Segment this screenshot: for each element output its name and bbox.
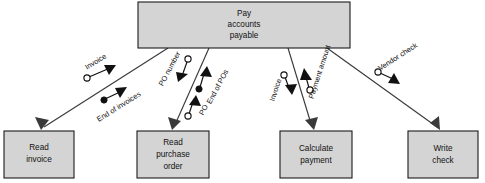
structure-chart-canvas: Pay accounts payable Read invoice Read p… — [0, 0, 485, 183]
couple-arrowhead-icon — [388, 73, 400, 84]
module-label-line: order — [163, 162, 182, 171]
module-label-line: purchase — [156, 150, 190, 159]
arrowhead-icon — [305, 117, 318, 130]
module-label-line: invoice — [26, 155, 52, 164]
module-read-purchase-order[interactable]: Read purchase order — [137, 131, 209, 178]
couple-arrowhead-icon — [200, 66, 212, 77]
data-couple-circle-icon — [84, 75, 90, 81]
couple-label: Payment amount — [307, 44, 333, 100]
couple-arrowhead-icon — [300, 68, 312, 80]
couple-invoice-up: Invoice — [83, 52, 116, 82]
module-pay-accounts-payable[interactable]: Pay accounts payable — [138, 2, 350, 48]
module-box[interactable] — [280, 131, 352, 178]
module-write-check[interactable]: Write check — [408, 131, 478, 178]
module-label-line: payable — [230, 31, 259, 40]
couple-arrowhead-icon — [176, 72, 188, 82]
module-label-line: Read — [163, 138, 183, 147]
couple-end-of-pos-up: End of POs — [196, 66, 231, 106]
arrowhead-icon — [430, 116, 440, 130]
couple-end-of-invoices-up: End of invoices — [95, 87, 143, 124]
couple-po-number-down: PO number — [157, 49, 191, 87]
couple-label: Vendor check — [376, 40, 419, 72]
couple-arrowhead-icon — [285, 84, 297, 95]
arrowhead-icon — [168, 117, 181, 130]
data-couple-circle-icon — [185, 113, 191, 119]
couple-vendor-check-down: Vendor check — [375, 40, 419, 84]
module-box[interactable] — [408, 131, 478, 178]
couple-label: PO number — [157, 49, 183, 87]
couple-arrowhead-icon — [189, 95, 201, 106]
module-label-line: Write — [434, 144, 453, 153]
module-read-invoice[interactable]: Read invoice — [4, 131, 74, 178]
data-couple-circle-icon — [281, 72, 287, 78]
connector-line — [327, 48, 437, 127]
control-couple-circle-icon — [196, 86, 202, 92]
control-couple-circle-icon — [101, 97, 107, 103]
module-label-line: payment — [300, 156, 332, 165]
module-label-line: Read — [29, 143, 49, 152]
arrowhead-icon — [35, 117, 49, 130]
structure-chart-svg: Pay accounts payable Read invoice Read p… — [0, 0, 485, 183]
couple-payment-amount-up: Payment amount — [300, 44, 332, 100]
module-calculate-payment[interactable]: Calculate payment — [280, 131, 352, 178]
couple-invoice-down: Invoice — [268, 72, 297, 102]
module-label-line: accounts — [228, 20, 261, 29]
couple-label: Invoice — [268, 77, 284, 102]
module-label-line: check — [432, 156, 454, 165]
couple-label: Invoice — [83, 52, 108, 72]
data-couple-circle-icon — [185, 56, 191, 62]
module-label-line: Pay — [237, 9, 252, 18]
module-label-line: Calculate — [299, 144, 334, 153]
